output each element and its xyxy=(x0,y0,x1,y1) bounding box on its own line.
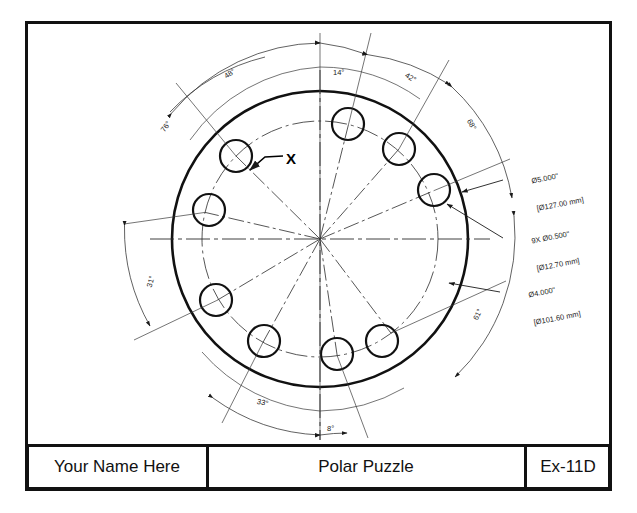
hole-lower-left xyxy=(200,284,232,316)
arc-8 xyxy=(320,433,347,435)
arc-68 xyxy=(452,87,512,198)
arc-48 xyxy=(170,57,265,112)
title-block-name-field[interactable]: Your Name Here xyxy=(28,446,206,488)
title-block-drawing-title: Polar Puzzle xyxy=(209,446,523,488)
sheet-border xyxy=(27,23,611,490)
arc-14 xyxy=(320,43,367,55)
x-annotation-leader xyxy=(250,156,283,170)
leader-hole-diameter xyxy=(447,204,503,238)
callout-hole-diameter-line1: 9X Ø0.500" xyxy=(531,228,575,245)
callout-leaders xyxy=(447,180,503,292)
hole-top xyxy=(332,108,364,140)
angular-dimension-14: 14° xyxy=(333,68,344,77)
hole-marker-label: X xyxy=(286,150,296,167)
title-block-drawing-number: Ex-11D xyxy=(527,446,609,488)
leader-outer-diameter xyxy=(462,180,503,192)
arc-61 xyxy=(455,216,515,377)
callout-bolt-circle-line2: [Ø101.60 mm] xyxy=(533,309,581,327)
hole-right xyxy=(418,174,450,206)
drawing-sheet: Your Name Here Polar Puzzle Ex-11D Ø5.00… xyxy=(0,0,637,513)
callout-bolt-circle-line1: Ø4.000" xyxy=(528,281,576,299)
arc-76 xyxy=(172,43,320,113)
hole-lower-right xyxy=(366,325,398,357)
arc-31 xyxy=(124,226,150,326)
callout-outside-diameter-line1: Ø5.000" xyxy=(531,167,579,185)
angular-dimension-8: 8° xyxy=(327,424,334,433)
